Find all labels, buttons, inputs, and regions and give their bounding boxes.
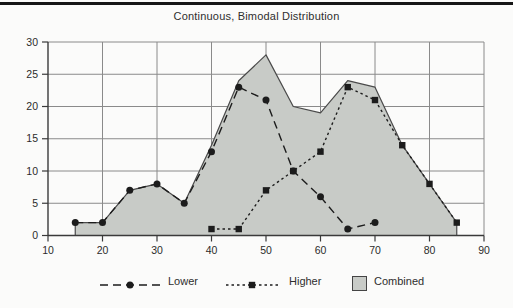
svg-text:50: 50 bbox=[260, 244, 272, 256]
svg-text:40: 40 bbox=[206, 244, 218, 256]
svg-text:10: 10 bbox=[26, 165, 38, 177]
svg-text:30: 30 bbox=[151, 244, 163, 256]
legend: Lower Higher Combined bbox=[0, 273, 513, 297]
svg-text:80: 80 bbox=[424, 244, 436, 256]
combined-area-legend-swatch bbox=[352, 276, 367, 291]
svg-text:70: 70 bbox=[369, 244, 381, 256]
higher-series-legend-icon bbox=[226, 279, 278, 291]
legend-label-higher: Higher bbox=[289, 275, 321, 287]
svg-text:20: 20 bbox=[97, 244, 109, 256]
svg-text:90: 90 bbox=[478, 244, 490, 256]
svg-text:0: 0 bbox=[32, 229, 38, 241]
figure: Continuous, Bimodal Distribution 1020304… bbox=[0, 0, 513, 308]
svg-text:20: 20 bbox=[26, 100, 38, 112]
svg-text:15: 15 bbox=[26, 132, 38, 144]
svg-text:25: 25 bbox=[26, 68, 38, 80]
lower-series-legend-icon bbox=[100, 279, 160, 291]
svg-text:30: 30 bbox=[26, 36, 38, 48]
svg-text:10: 10 bbox=[42, 244, 54, 256]
svg-text:60: 60 bbox=[315, 244, 327, 256]
legend-label-combined: Combined bbox=[374, 275, 424, 287]
svg-text:5: 5 bbox=[32, 197, 38, 209]
plot-area: 102030405060708090051015202530 bbox=[0, 0, 513, 266]
legend-label-lower: Lower bbox=[168, 275, 198, 287]
